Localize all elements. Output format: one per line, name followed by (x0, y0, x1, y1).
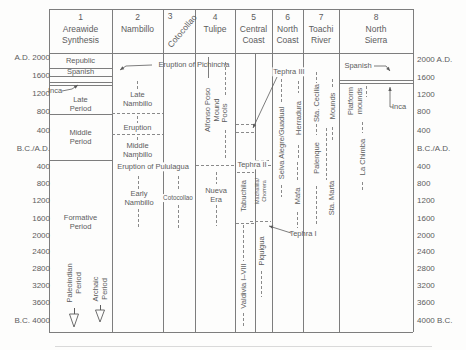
axis-tick-label-right: 4000 B.C. (417, 316, 453, 325)
axis-tick-label-left: 2000 (32, 231, 50, 240)
archaic-down-arrow-icon (96, 310, 105, 322)
paleoindian-period-label: PaleoindianPeriod (65, 263, 83, 302)
pools-label-line: Pools (220, 104, 229, 123)
nueva-era-label: Nueva Era (205, 186, 227, 205)
axis-tick-label-left: 2800 (32, 264, 50, 273)
axis-tick-label-left: 3600 (32, 298, 50, 307)
paleoindian-period-label-line: Paleoindian (65, 263, 74, 302)
column-title: Coast (276, 35, 298, 45)
column-title: Coast (242, 35, 264, 45)
sta-marta-label-line: Sta. Marta (327, 181, 336, 216)
axis-tick-label-left: 400 (37, 162, 50, 171)
axis-tick-label-left: 1600 (32, 214, 50, 223)
piquigua-label: Piquigua (257, 236, 266, 265)
mounds-label: Mounds (328, 93, 337, 120)
machalilla-chorrera-label: Machalilla/Chorrera (254, 178, 267, 204)
axis-tick-label-left: 800 (37, 107, 50, 116)
column-number: 1 (78, 12, 83, 22)
pools-label: Pools (220, 104, 229, 123)
axis-tick-label-right: 1600 (417, 214, 435, 223)
palenque-label: Palenque (312, 142, 321, 174)
axis-tick-label-right: 1200 (417, 90, 435, 99)
sta-cecilia-label-line: Sta. Cecilia (312, 84, 321, 122)
archaic-period-label-line: Period (100, 276, 109, 301)
column-title: North (277, 24, 298, 34)
axis-tick-label-right: 800 (417, 179, 430, 188)
alfonso-poso-mound-label: Alfonso PosoMound (203, 88, 221, 132)
valdivia-label-line: Valdivia I–VIII (239, 263, 248, 308)
column-title: Areawide (63, 24, 98, 34)
axis-tick-label-left: 1200 (32, 196, 50, 205)
pululagua-eruption-label: Eruption of Pululagua (116, 162, 190, 171)
tephra-1-label: Tephra I (289, 229, 316, 238)
herradura-label-line: Herradura (294, 101, 303, 135)
tephra-3-label: Tephra III (272, 67, 305, 76)
axis-tick-label-left: A.D. 2000 (14, 53, 50, 62)
mafa-label: Mafa (293, 188, 302, 205)
column-number: 2 (135, 12, 140, 22)
pichincha-eruption-label: Eruption of Pichincha (159, 60, 230, 69)
column-title: River (311, 35, 331, 45)
herradura-label: Herradura (294, 101, 303, 135)
axis-tick-label-left: B.C. 4000 (14, 316, 50, 325)
pichincha-pointer-arrowhead-icon (120, 66, 124, 70)
axis-tick-label-right: 1200 (417, 196, 435, 205)
alfonso-poso-mound-label-line: Alfonso Poso (203, 88, 212, 132)
paleoindian-period-label-line: Period (74, 263, 83, 302)
eruption-label: Eruption (124, 123, 152, 132)
machalilla-chorrera-label-line: Chorrera (261, 178, 268, 204)
middle-nambillo-label: Middle Nambillo (123, 141, 152, 160)
axis-tick-label-right: 800 (417, 107, 430, 116)
mafa-label-line: Mafa (293, 188, 302, 205)
axis-tick-label-right: 3200 (417, 281, 435, 290)
axis-tick-label-left: 2400 (32, 247, 50, 256)
selva-alegre-guadual-label-line: Selva Alegre/Guadual (277, 107, 286, 180)
archaic-period-label: ArchaicPeriod (91, 276, 109, 301)
axis-tick-label-left: B.C./A.D. (17, 144, 50, 153)
column-title: Nambillo (121, 24, 154, 34)
tabuchila-label-line: Tabuchila (239, 180, 248, 212)
column-number: 7 (319, 12, 324, 22)
column-number: 3 (168, 11, 173, 21)
axis-tick-label-right: 2800 (417, 264, 435, 273)
axis-tick-label-left: 1600 (32, 71, 50, 80)
inca-col8-pointer-arrowhead-icon (388, 87, 391, 91)
column-number: 6 (285, 12, 290, 22)
axis-tick-label-right: 400 (417, 162, 430, 171)
formative-period-label: Formative Period (64, 213, 97, 232)
platform-mounds-label-line: Platform (346, 87, 355, 115)
spanish-label-col8: Spanish (344, 61, 371, 70)
republic-label: Republic (66, 56, 95, 65)
axis-tick-label-right: 2000 A.D. (417, 55, 452, 64)
inca-label-col8: Inca (392, 102, 406, 111)
column-title: Synthesis (62, 35, 99, 45)
axis-tick-label-right: 1600 (417, 73, 435, 82)
machalilla-chorrera-label-line: Machalilla/ (254, 178, 261, 204)
axis-tick-label-right: 2000 (417, 231, 435, 240)
la-chimba-label: La Chimba (358, 139, 367, 175)
column-title: Sierra (365, 35, 388, 45)
axis-tick-label-left: 3200 (32, 281, 50, 290)
axis-tick-label-left: 800 (37, 179, 50, 188)
late-nambillo-label: Late Nambillo (123, 90, 152, 109)
platform-mounds-label: Platformmounds (346, 87, 364, 115)
inca-label-col1: Inca (48, 86, 62, 95)
late-period-label: Late Period (70, 95, 92, 114)
la-chimba-label-line: La Chimba (358, 139, 367, 175)
column-title: Central (240, 24, 267, 34)
column-title: Toachi (309, 24, 334, 34)
tephra-1-pointer-arrowhead-icon (269, 226, 273, 229)
tabuchila-label: Tabuchila (239, 180, 248, 212)
valdivia-label: Valdivia I–VIII (239, 263, 248, 308)
pichincha-pointer (120, 65, 152, 70)
archaic-period-label-line: Archaic (91, 276, 100, 301)
column-title: Tulipe (204, 24, 227, 34)
middle-period-label: Middle Period (69, 128, 91, 147)
sta-cecilia-label: Sta. Cecilia (312, 84, 321, 122)
column-title: North (366, 24, 387, 34)
early-nambillo-label: Early Nambillo (124, 189, 153, 208)
chronology-diagram: 1AreawideSynthesis2Nambillo3Cotocollao4T… (0, 0, 466, 350)
axis-tick-label-left: 400 (37, 126, 50, 135)
spanish-label-col1: Spanish (67, 67, 94, 76)
paleoindian-down-arrow-icon (70, 314, 79, 327)
